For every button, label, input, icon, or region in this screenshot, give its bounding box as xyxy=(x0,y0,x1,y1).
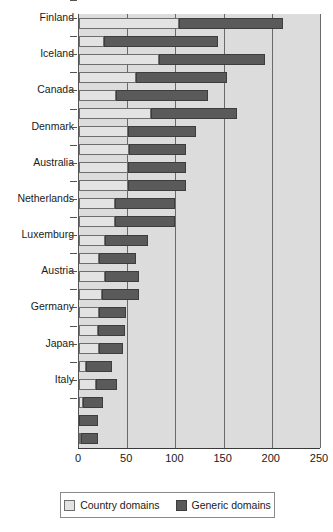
legend-item-country-domains: Country domains xyxy=(64,499,159,511)
bar-row xyxy=(79,162,320,173)
bar-segment-country-domains xyxy=(79,289,102,300)
bar-segment-country-domains xyxy=(79,180,128,191)
bar-segment-country-domains xyxy=(79,162,128,173)
y-axis-tick xyxy=(70,127,77,128)
bar-segment-country-domains xyxy=(79,271,105,282)
y-axis-label-italy: Italy xyxy=(6,374,74,385)
legend-label-generic-domains: Generic domains xyxy=(192,499,271,511)
bar-row xyxy=(79,379,320,390)
y-axis-label-luxemburg: Luxemburg xyxy=(6,229,74,240)
bar-segment-generic-domains xyxy=(99,253,136,264)
bar-row xyxy=(79,325,320,336)
bar-segment-country-domains xyxy=(79,90,116,101)
bar-row xyxy=(79,54,320,65)
y-axis-tick xyxy=(70,253,77,254)
bar-segment-generic-domains xyxy=(136,72,228,83)
bar-segment-country-domains xyxy=(79,343,99,354)
y-axis-tick xyxy=(70,181,77,182)
y-axis-tick xyxy=(70,0,77,1)
chart-legend: Country domains Generic domains xyxy=(60,492,275,518)
bar-row xyxy=(79,289,320,300)
bar-segment-generic-domains xyxy=(128,126,195,137)
y-axis-label-japan: Japan xyxy=(6,338,74,349)
x-axis-label-100: 100 xyxy=(165,452,183,464)
plot-area xyxy=(78,14,320,448)
bar-segment-country-domains xyxy=(79,54,159,65)
y-axis-tick xyxy=(70,72,77,73)
bar-segment-generic-domains xyxy=(104,36,218,47)
y-axis-tick xyxy=(70,380,77,381)
y-axis-tick xyxy=(70,109,77,110)
x-axis-label-50: 50 xyxy=(120,452,132,464)
bar-segment-generic-domains xyxy=(115,198,176,209)
y-axis-tick xyxy=(70,271,77,272)
x-axis-label-150: 150 xyxy=(213,452,231,464)
bar-segment-country-domains xyxy=(79,361,86,372)
bar-row xyxy=(79,90,320,101)
bar-segment-generic-domains xyxy=(105,271,139,282)
bar-row xyxy=(79,271,320,282)
bar-segment-generic-domains xyxy=(79,415,98,426)
y-axis-tick xyxy=(70,36,77,37)
bar-row xyxy=(79,307,320,318)
y-axis-tick xyxy=(70,326,77,327)
bar-row xyxy=(79,397,320,408)
bar-segment-country-domains xyxy=(79,108,151,119)
bar-segment-country-domains xyxy=(79,36,104,47)
bar-segment-country-domains xyxy=(79,307,99,318)
bars-layer xyxy=(79,14,320,448)
bar-row xyxy=(79,144,320,155)
y-axis-label-australia: Australia xyxy=(6,157,74,168)
y-axis-tick xyxy=(70,235,77,236)
y-axis-tick xyxy=(70,18,77,19)
y-axis-tick xyxy=(70,90,77,91)
y-axis-label-germany: Germany xyxy=(6,301,74,312)
bar-segment-country-domains xyxy=(79,126,128,137)
bar-segment-generic-domains xyxy=(128,162,186,173)
y-axis-tick xyxy=(70,362,77,363)
bar-segment-generic-domains xyxy=(151,108,237,119)
bar-segment-generic-domains xyxy=(86,361,112,372)
y-axis-tick xyxy=(70,307,77,308)
bar-segment-generic-domains xyxy=(179,18,283,29)
bar-row xyxy=(79,343,320,354)
bar-row xyxy=(79,126,320,137)
bar-row xyxy=(79,108,320,119)
bar-segment-generic-domains xyxy=(99,307,126,318)
gridline-250 xyxy=(320,14,321,448)
bar-row xyxy=(79,433,320,444)
bar-row xyxy=(79,415,320,426)
y-axis-tick xyxy=(70,199,77,200)
x-axis-label-250: 250 xyxy=(310,452,328,464)
bar-segment-generic-domains xyxy=(159,54,265,65)
legend-swatch-country-domains xyxy=(64,500,75,511)
bar-segment-generic-domains xyxy=(81,433,98,444)
bar-segment-country-domains xyxy=(79,253,99,264)
bar-row xyxy=(79,361,320,372)
bar-row xyxy=(79,18,320,29)
y-axis-label-netherlands: Netherlands xyxy=(6,193,74,204)
y-axis-tick xyxy=(70,344,77,345)
x-axis-label-200: 200 xyxy=(262,452,280,464)
bar-segment-generic-domains xyxy=(115,216,176,227)
bar-row xyxy=(79,235,320,246)
y-axis-label-canada: Canada xyxy=(6,84,74,95)
bar-segment-country-domains xyxy=(79,379,96,390)
bar-row xyxy=(79,253,320,264)
bar-segment-country-domains xyxy=(79,235,105,246)
bar-segment-generic-domains xyxy=(96,379,116,390)
y-axis-tick xyxy=(70,163,77,164)
bar-segment-generic-domains xyxy=(83,397,103,408)
bar-segment-generic-domains xyxy=(116,90,209,101)
chart-figure: FinlandIcelandCanadaDenmarkAustraliaNeth… xyxy=(0,0,333,532)
bar-segment-generic-domains xyxy=(128,180,186,191)
legend-swatch-generic-domains xyxy=(176,500,187,511)
y-axis-tick xyxy=(70,145,77,146)
legend-item-generic-domains: Generic domains xyxy=(176,499,271,511)
bar-row xyxy=(79,72,320,83)
x-axis-label-0: 0 xyxy=(75,452,81,464)
y-axis-label-denmark: Denmark xyxy=(6,121,74,132)
bar-segment-generic-domains xyxy=(99,343,123,354)
bar-segment-country-domains xyxy=(79,18,179,29)
bar-segment-country-domains xyxy=(79,72,136,83)
